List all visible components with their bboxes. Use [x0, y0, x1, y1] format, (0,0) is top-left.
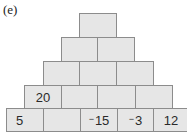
brick-r5-c3: −15 — [80, 108, 118, 132]
brick-value: −3 — [129, 113, 143, 128]
brick-r3-c2 — [79, 61, 117, 86]
brick-r4-c3 — [97, 85, 136, 109]
brick-r3-c3 — [116, 61, 154, 86]
minus-sign: − — [129, 114, 134, 124]
brick-r5-c5: 12 — [153, 108, 187, 132]
minus-sign: − — [89, 114, 94, 124]
brick-r4-c2 — [61, 85, 98, 109]
brick-value: 20 — [36, 90, 50, 105]
brick-value: −15 — [89, 113, 110, 128]
brick-r2-c2 — [97, 37, 135, 62]
brick-r5-c1: 5 — [6, 108, 44, 132]
brick-r4-c1: 20 — [24, 85, 62, 109]
brick-r3-c1 — [43, 61, 80, 86]
brick-r1-c1 — [79, 13, 117, 38]
brick-r4-c4 — [135, 85, 173, 109]
brick-r5-c2 — [43, 108, 81, 132]
problem-label: (e) — [3, 2, 17, 18]
brick-value: 5 — [16, 113, 23, 128]
brick-value: 12 — [164, 113, 178, 128]
brick-r2-c1 — [61, 37, 98, 62]
brick-r5-c4: −3 — [117, 108, 154, 132]
